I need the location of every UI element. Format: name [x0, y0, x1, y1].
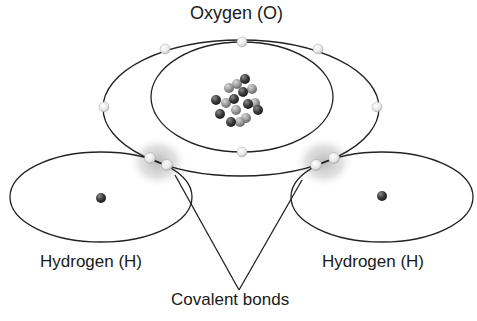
bond-pointer-left	[175, 175, 239, 290]
bond-pointer-right	[239, 180, 302, 290]
water-molecule-diagram	[0, 0, 477, 321]
covalent-bonds-label: Covalent bonds	[171, 290, 289, 310]
oxygen-inner-shell	[151, 42, 333, 152]
hydrogen-right-label: Hydrogen (H)	[322, 252, 424, 272]
hydrogen-left-nucleus	[96, 193, 106, 203]
hydrogen-right-nucleus	[377, 191, 387, 201]
oxygen-nucleus	[211, 74, 263, 127]
oxygen-label: Oxygen (O)	[190, 3, 283, 24]
hydrogen-left-label: Hydrogen (H)	[40, 252, 142, 272]
